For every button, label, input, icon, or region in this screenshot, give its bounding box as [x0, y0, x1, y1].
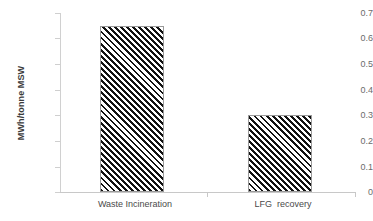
y-tick-label-0.4: 0.4: [327, 85, 373, 95]
bar-chart: MWh/tonne MSW 0.7 0.6 0.5 0.4 0.3 0.2 0.…: [0, 0, 373, 221]
bar-lfg-recovery: [248, 115, 312, 192]
y-tick-label-0.3: 0.3: [327, 110, 373, 120]
x-axis-line: [60, 192, 356, 193]
y-tick-mark-0: [55, 13, 60, 14]
y-tick-mark-3: [55, 90, 60, 91]
y-tick-mark-7: [55, 192, 60, 193]
y-tick-label-0.5: 0.5: [327, 59, 373, 69]
y-axis-line: [60, 13, 61, 193]
y-tick-label-0.1: 0.1: [327, 162, 373, 172]
y-tick-mark-2: [55, 64, 60, 65]
bar-waste-incineration: [100, 26, 164, 192]
x-axis-label-lfg-recovery: LFG recovery: [238, 199, 328, 209]
y-tick-mark-4: [55, 115, 60, 116]
y-tick-mark-5: [55, 141, 60, 142]
y-tick-mark-6: [55, 167, 60, 168]
y-tick-label-0.2: 0.2: [327, 136, 373, 146]
y-tick-label-0.6: 0.6: [327, 33, 373, 43]
y-tick-label-0: 0: [327, 187, 373, 197]
y-axis-title: MWh/tonne MSW: [16, 38, 26, 168]
x-axis-label-waste-incineration: Waste Incineration: [85, 199, 185, 209]
y-tick-mark-1: [55, 38, 60, 39]
y-tick-label-0.7: 0.7: [327, 8, 373, 18]
x-tick-mark-mid: [207, 192, 208, 197]
